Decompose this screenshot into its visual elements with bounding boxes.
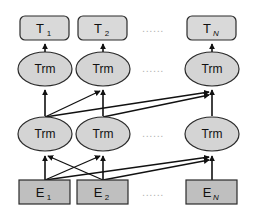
input-label-eN-sub: N [213,193,219,202]
output-label-tN-main: T [203,21,211,36]
output-node-tN[interactable]: T N [187,16,236,40]
transformer-node-l1-cN[interactable]: Trm [185,117,239,151]
transformer-node-l1-c2[interactable]: Trm [76,117,130,151]
edges-layer1-to-layer2 [45,90,212,117]
output-label-t2-sub: 2 [105,29,110,38]
transformer-lower-row-ellipsis: ...... [142,127,164,139]
edge-e1-to-trm1-N [45,157,209,180]
output-label-t2-main: T [94,21,102,36]
input-label-eN-main: E [203,185,212,200]
input-box-e2[interactable] [77,180,128,204]
transformer-upper-row: Trm Trm ...... Trm [18,52,239,86]
transformer-label-l2-c1: Trm [35,62,56,76]
transformer-node-l2-cN[interactable]: Trm [185,52,239,86]
input-row: E 1 E 2 ...... E N [19,180,237,204]
transformer-label-l1-c2: Trm [93,127,114,141]
output-box-t2[interactable] [78,16,127,40]
input-node-e2[interactable]: E 2 [77,180,128,204]
output-label-tN-sub: N [213,29,219,38]
input-label-e2-sub: 2 [105,193,110,202]
input-node-eN[interactable]: E N [186,180,237,204]
transformer-node-l1-c1[interactable]: Trm [18,117,72,151]
transformer-node-l2-c1[interactable]: Trm [18,52,72,86]
edge-trm1-1-to-trm2-N [45,92,209,117]
transformer-label-l1-c1: Trm [35,127,56,141]
edge-e2-to-trm1-1 [48,156,103,180]
input-node-e1[interactable]: E 1 [19,180,70,204]
output-row: T 1 T 2 ...... T N [20,16,236,40]
input-box-e1[interactable] [19,180,70,204]
output-node-t1[interactable]: T 1 [20,16,69,40]
transformer-upper-row-ellipsis: ...... [142,62,164,74]
output-label-t1-sub: 1 [47,29,52,38]
edges-input-to-layer1 [45,156,212,180]
input-label-e1-main: E [36,185,45,200]
input-label-e1-sub: 1 [47,193,52,202]
input-box-eN[interactable] [186,180,237,204]
output-node-t2[interactable]: T 2 [78,16,127,40]
transformer-node-l2-c2[interactable]: Trm [76,52,130,86]
edges-layer2-to-output [45,44,212,52]
input-row-ellipsis: ...... [142,186,164,198]
bert-architecture-diagram: T 1 T 2 ...... T N Trm Trm [0,0,256,218]
transformer-label-l2-cN: Trm [202,62,223,76]
output-row-ellipsis: ...... [142,22,164,34]
output-box-tN[interactable] [187,16,236,40]
transformer-label-l1-cN: Trm [202,127,223,141]
diagram-canvas: T 1 T 2 ...... T N Trm Trm [0,0,256,218]
output-box-t1[interactable] [20,16,69,40]
transformer-lower-row: Trm Trm ...... Trm [18,117,239,151]
input-label-e2-main: E [94,185,103,200]
transformer-label-l2-c2: Trm [93,62,114,76]
output-label-t1-main: T [36,21,44,36]
